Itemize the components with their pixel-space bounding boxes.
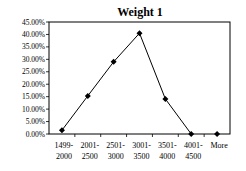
x-tick-label: 3501- [158, 141, 177, 150]
y-tick-label: 40.00% [22, 30, 45, 39]
y-tick-label: 10.00% [22, 105, 45, 114]
x-tick-label: 2501- [106, 141, 125, 150]
y-tick-label: 5.00% [26, 117, 45, 126]
y-axis: 0.00%5.00%10.00%15.00%20.00%25.00%30.00%… [22, 18, 49, 139]
x-tick-label: 3500 [134, 152, 150, 161]
y-tick-label: 20.00% [22, 80, 45, 89]
y-tick-label: 0.00% [26, 130, 45, 139]
x-tick-label: 3001- [132, 141, 151, 150]
y-tick-label: 25.00% [22, 67, 45, 76]
x-tick-label: 2500 [82, 152, 98, 161]
chart-title: Weight 1 [117, 5, 163, 19]
y-tick-label: 45.00% [22, 18, 45, 27]
y-tick-label: 35.00% [22, 42, 45, 51]
y-tick-label: 30.00% [22, 55, 45, 64]
y-tick-label: 15.00% [22, 92, 45, 101]
x-tick-label: 1499- [55, 141, 74, 150]
x-tick-label: 4001- [184, 141, 203, 150]
x-tick-label: 4500 [185, 152, 201, 161]
plot-area [49, 22, 230, 134]
x-tick-label: 3000 [108, 152, 124, 161]
x-tick-label: 2001- [80, 141, 99, 150]
x-tick-label: 4000 [159, 152, 175, 161]
x-axis: 1499-20002001-25002501-30003001-35003501… [55, 134, 229, 161]
x-tick-label: 2000 [56, 152, 72, 161]
x-tick-label: More [210, 141, 228, 150]
line-chart: Weight 1 0.00%5.00%10.00%15.00%20.00%25.… [0, 0, 246, 171]
